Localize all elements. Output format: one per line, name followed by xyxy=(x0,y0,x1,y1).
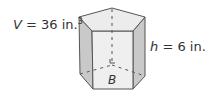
volume-label: V = 36 in.3 xyxy=(13,17,83,32)
height-label: h = 6 in. xyxy=(150,39,205,54)
base-label: B xyxy=(108,73,116,87)
pentagonal-prism-diagram: V = 36 in.3 h = 6 in. B xyxy=(0,0,205,94)
